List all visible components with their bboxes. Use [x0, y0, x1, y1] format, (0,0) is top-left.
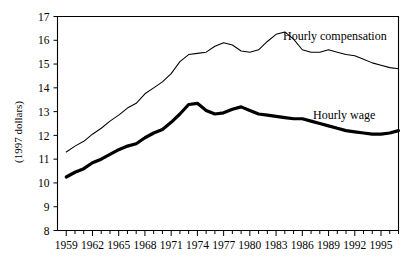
y-axis-tick-label: 11 [38, 153, 49, 165]
plot-frame [58, 17, 399, 231]
chart-container: 891011121314151617 195919621965196819711… [0, 0, 416, 272]
plot-border [58, 17, 399, 231]
x-axis-tick-label: 1995 [370, 239, 393, 251]
line-chart: 891011121314151617 195919621965196819711… [0, 0, 416, 272]
y-axis-tick-label: 17 [38, 11, 50, 23]
x-axis-tick-label: 1971 [160, 239, 183, 251]
x-axis-tick-label: 1989 [317, 239, 340, 251]
y-axis-tick-label: 16 [38, 34, 50, 46]
y-axis-tick-label: 10 [38, 177, 50, 189]
x-axis-tick-label: 1986 [291, 239, 314, 251]
x-axis-tick-labels: 1959196219651968197119741977198019831986… [55, 239, 393, 251]
x-axis-tick-label: 1983 [265, 239, 288, 251]
y-axis-tick-label: 12 [38, 130, 50, 142]
x-axis-tick-label: 1980 [238, 239, 261, 251]
x-axis-tick-label: 1962 [81, 239, 104, 251]
y-axis-tick-label: 14 [38, 82, 50, 94]
x-axis-tick-label: 1977 [212, 239, 235, 251]
y-axis-tick-label: 15 [38, 58, 50, 70]
data-series-group [66, 32, 398, 177]
x-axis-tick-label: 1974 [186, 239, 209, 251]
x-axis-tick-label: 1968 [133, 239, 156, 251]
x-axis-tick-label: 1959 [55, 239, 78, 251]
x-axis-ticks [66, 231, 398, 237]
series-line-hourly-compensation [66, 32, 398, 152]
y-axis-tick-label: 13 [38, 106, 50, 118]
x-axis-tick-label: 1992 [343, 239, 366, 251]
y-axis-ticks [54, 17, 58, 231]
y-axis-tick-label: 9 [44, 201, 50, 213]
y-axis-tick-label: 8 [44, 225, 50, 237]
x-axis-tick-label: 1965 [107, 239, 130, 251]
y-axis-title: (1997 dollars) [12, 101, 25, 163]
series-label-hourly-compensation: Hourly compensation [283, 29, 387, 43]
y-axis-tick-labels: 891011121314151617 [38, 11, 50, 237]
series-label-hourly-wage: Hourly wage [313, 108, 375, 122]
